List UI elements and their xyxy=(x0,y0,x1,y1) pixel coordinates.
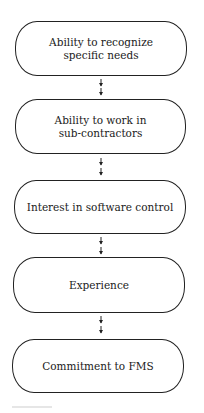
node-label-line: specific needs xyxy=(41,49,161,62)
faint-caption-mark xyxy=(12,406,52,408)
flow-node-commitment-fms: Commitment to FMS xyxy=(12,339,184,393)
arrow-down-icon xyxy=(98,237,104,245)
arrow-down-icon xyxy=(98,247,104,255)
arrow-down-icon xyxy=(98,316,104,324)
flow-node-recognize-needs: Ability to recognize specific needs xyxy=(15,21,187,76)
node-label: Experience xyxy=(61,279,137,292)
arrow-down-icon xyxy=(98,79,104,87)
node-label-line: Ability to work in xyxy=(47,114,155,127)
node-label: Commitment to FMS xyxy=(34,360,161,373)
flow-connector-2 xyxy=(98,158,104,176)
flow-node-software-control: Interest in software control xyxy=(14,180,186,234)
arrow-down-icon xyxy=(98,168,104,176)
flow-connector-3 xyxy=(98,237,104,255)
node-label-line: sub-contractors xyxy=(47,127,155,140)
node-label: Interest in software control xyxy=(19,201,182,214)
flow-connector-1 xyxy=(98,79,104,97)
arrow-down-icon xyxy=(98,158,104,166)
arrow-down-icon xyxy=(98,326,104,334)
flow-node-experience: Experience xyxy=(13,257,185,313)
arrow-down-icon xyxy=(98,88,104,96)
node-label-line: Ability to recognize xyxy=(41,36,161,49)
flow-connector-4 xyxy=(98,316,104,334)
flow-node-work-subcontractors: Ability to work in sub-contractors xyxy=(15,99,186,154)
